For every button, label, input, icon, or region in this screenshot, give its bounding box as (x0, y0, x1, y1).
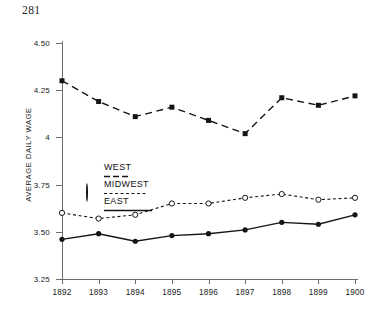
legend-item-midwest: MIDWEST (84, 179, 204, 196)
legend-label-west: WEST (104, 162, 131, 172)
legend-label-midwest: MIDWEST (104, 179, 149, 189)
data-point-circle (59, 237, 64, 242)
chart-legend: WEST MIDWEST EAST (84, 162, 204, 213)
data-point-circle (352, 212, 357, 217)
data-point-square (133, 114, 138, 119)
data-point-open-circle (59, 210, 64, 215)
data-point-circle (169, 233, 174, 238)
data-point-open-circle (96, 216, 101, 221)
figure-page: 281 AVERAGE DAILY WAGE 4.504.2543.753.50… (0, 0, 379, 314)
data-point-square (60, 78, 65, 83)
data-point-circle (243, 227, 248, 232)
data-point-square (243, 131, 248, 136)
open-circle-icon (84, 184, 93, 193)
legend-item-west: WEST (84, 162, 204, 179)
data-point-square (316, 103, 321, 108)
data-point-circle (279, 220, 284, 225)
chart-figure: AVERAGE DAILY WAGE 4.504.2543.753.503.25… (0, 22, 379, 314)
data-point-open-circle (352, 195, 357, 200)
data-point-circle (316, 222, 321, 227)
data-point-open-circle (316, 197, 321, 202)
legend-line-midwest (104, 192, 160, 195)
data-point-square (169, 105, 174, 110)
legend-item-east: EAST (84, 196, 204, 213)
legend-line-west (104, 175, 160, 178)
data-point-square (279, 95, 284, 100)
data-point-open-circle (279, 191, 284, 196)
legend-label-east: EAST (104, 196, 129, 206)
series-west (60, 78, 358, 136)
filled-square-icon (84, 167, 93, 176)
data-point-open-circle (206, 201, 211, 206)
legend-line-east (104, 209, 160, 212)
series-east (59, 212, 357, 244)
series-line (62, 81, 355, 134)
data-point-circle (206, 231, 211, 236)
data-point-square (353, 93, 358, 98)
series-line (62, 215, 355, 241)
data-point-open-circle (243, 195, 248, 200)
page-number: 281 (22, 4, 40, 16)
data-point-square (96, 99, 101, 104)
filled-circle-icon (84, 201, 93, 210)
data-point-circle (133, 239, 138, 244)
data-point-circle (96, 231, 101, 236)
data-point-square (206, 118, 211, 123)
